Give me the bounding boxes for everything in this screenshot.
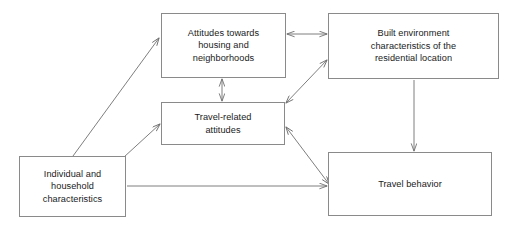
edge-individual-household-attitudes-housing bbox=[73, 38, 159, 156]
node-attitudes-towards-housing-and-neighborhoods: Attitudes towards housing and neighborho… bbox=[161, 13, 286, 78]
node-individual-and-household-characteristics: Individual and household characteristics bbox=[19, 156, 126, 217]
edge-travel-attitudes-travel-behavior bbox=[286, 127, 329, 184]
node-label: Travel behavior bbox=[373, 178, 447, 191]
node-travel-behavior: Travel behavior bbox=[328, 152, 492, 216]
node-label: Attitudes towards housing and neighborho… bbox=[183, 27, 264, 65]
edge-travel-attitudes-built-environment bbox=[286, 60, 327, 103]
node-label: Travel-related attitudes bbox=[189, 111, 256, 136]
node-label: Individual and household characteristics bbox=[38, 168, 107, 206]
node-built-environment-characteristics: Built environment characteristics of the… bbox=[328, 13, 499, 79]
diagram-canvas: Attitudes towards housing and neighborho… bbox=[0, 0, 513, 230]
edge-individual-household-travel-attitudes bbox=[124, 124, 160, 157]
node-travel-related-attitudes: Travel-related attitudes bbox=[161, 102, 285, 145]
node-label: Built environment characteristics of the… bbox=[366, 27, 461, 65]
